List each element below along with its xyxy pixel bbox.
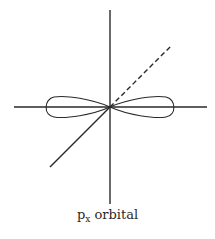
px-orbital-diagram (0, 0, 215, 239)
orbital-caption: px orbital (0, 206, 215, 228)
caption-suffix: orbital (90, 207, 138, 222)
caption-main: p (77, 207, 85, 222)
